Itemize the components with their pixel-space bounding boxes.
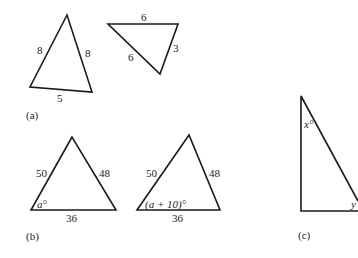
right-triangle-c [301,96,358,211]
side-label: 3 [173,42,179,54]
panel-c: x° y (c) [298,96,358,242]
side-label: 48 [99,167,111,179]
side-label: 36 [172,212,184,224]
triangle-a2 [108,24,178,74]
side-label: 8 [37,44,43,56]
angle-label: y [350,198,356,210]
side-label: 36 [66,212,78,224]
angle-label: a° [37,198,48,210]
side-label: 48 [209,167,221,179]
side-label: 50 [146,167,158,179]
panel-label-b: (b) [26,230,39,243]
panel-a: 8 8 5 6 6 3 (a) [26,11,179,122]
side-label: 6 [128,51,134,63]
panel-b: 50 48 36 a° 50 48 36 (a + 10)° (b) [26,135,221,243]
panel-label-c: (c) [298,229,311,242]
panel-label-a: (a) [26,109,39,122]
side-label: 50 [36,167,48,179]
side-label: 6 [141,11,147,23]
side-label: 5 [57,92,63,104]
angle-label: x° [303,118,314,130]
angle-label: (a + 10)° [145,198,187,211]
side-label: 8 [85,47,91,59]
triangle-figure: 8 8 5 6 6 3 (a) 50 48 36 a° 50 48 36 (a … [0,0,358,258]
